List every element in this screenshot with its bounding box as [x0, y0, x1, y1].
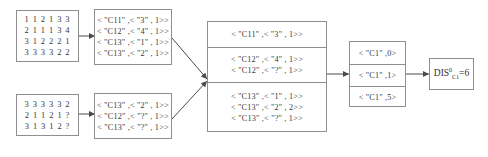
result-box: DIS0C1=6: [429, 58, 474, 90]
source-table-top: 1 1 2 1 3 3 2 1 1 1 3 4 3 1 2 2 2 1 3 3 …: [16, 10, 79, 62]
table-row: 2 1 1 1 3 4: [17, 25, 78, 36]
reducer-value: < "C1" ,1>: [359, 70, 397, 81]
tuple-row: < "C12" ,< "?" , 1>>: [95, 111, 171, 122]
mapper-output-top-rows: < "C11" ,< "3" , 1>> < "C12" ,< "4" , 1>…: [95, 10, 171, 64]
tuple-row: < "C13" ,< "?" , 1>>: [95, 122, 171, 133]
source-table-bottom-rows: 3 3 3 3 3 2 2 1 1 2 1 ? 3 1 3 1 2 ?: [17, 95, 78, 135]
diagram-canvas: 1 1 2 1 3 3 2 1 1 1 3 4 3 1 2 2 2 1 3 3 …: [0, 0, 488, 157]
tuple-row: < "C11" ,< "3" , 1>>: [95, 15, 171, 26]
mapper-output-bottom: < "C13" ,< "2" , 1>> < "C12" ,< "?" , 1>…: [94, 93, 172, 139]
result-prefix: DIS: [434, 69, 449, 79]
result-equals: =6: [459, 69, 469, 79]
reducer-box: < "C1" ,0> < "C1" ,1> < "C1" ,5>: [349, 41, 406, 107]
table-row: 1 1 2 1 3 3: [17, 14, 78, 25]
tuple-row: < "C12" ,< "?" , 1>>: [208, 65, 326, 76]
combiner-group-c13: < "C13" ,< "1" , 1>> < "C13" ,< "2" , 2>…: [208, 82, 326, 131]
tuple-row: < "C13" ,< "2" , 1>>: [95, 100, 171, 111]
tuple-row: < "C12" ,< "4" , 1>>: [208, 54, 326, 65]
mapper-output-bottom-rows: < "C13" ,< "2" , 1>> < "C12" ,< "?" , 1>…: [95, 94, 171, 138]
combiner-group-c11: < "C11" ,< "3" , 1>>: [208, 22, 326, 47]
table-row: 3 3 3 3 3 2: [17, 99, 78, 110]
source-table-top-rows: 1 1 2 1 3 3 2 1 1 1 3 4 3 1 2 2 2 1 3 3 …: [17, 11, 78, 61]
mapper-output-top: < "C11" ,< "3" , 1>> < "C12" ,< "4" , 1>…: [94, 9, 172, 65]
reducer-value: < "C1" ,0>: [359, 48, 397, 59]
reducer-cell: < "C1" ,0>: [350, 42, 405, 64]
tuple-row: < "C13" ,< "1" , 1>>: [208, 91, 326, 102]
source-table-bottom: 3 3 3 3 3 2 2 1 1 2 1 ? 3 1 3 1 2 ?: [16, 94, 79, 136]
result-superscript: 0: [449, 67, 452, 73]
tuple-row: < "C11" ,< "3" , 1>>: [208, 29, 326, 40]
reducer-value: < "C1" ,5>: [359, 92, 397, 103]
tuple-row: < "C12" ,< "4" , 1>>: [95, 26, 171, 37]
arrow-mapper-bottom-to-combiner: [172, 81, 207, 119]
table-row: 3 1 3 1 2 ?: [17, 121, 78, 132]
result-content: DIS0C1=6: [430, 59, 473, 89]
tuple-row: < "C13" ,< "?" , 1>>: [208, 113, 326, 124]
result-formula: DIS0C1=6: [434, 67, 469, 80]
tuple-row: < "C13" ,< "2" , 1>>: [95, 48, 171, 59]
table-row: 3 1 2 2 2 1: [17, 36, 78, 47]
reducer-cell: < "C1" ,1>: [350, 64, 405, 86]
combiner-box: < "C11" ,< "3" , 1>> < "C12" ,< "4" , 1>…: [207, 21, 327, 132]
table-row: 3 3 3 3 2 2: [17, 47, 78, 58]
combiner-group-c12: < "C12" ,< "4" , 1>> < "C12" ,< "?" , 1>…: [208, 47, 326, 82]
table-row: 2 1 1 2 1 ?: [17, 110, 78, 121]
arrow-mapper-top-to-combiner: [172, 38, 207, 79]
tuple-row: < "C13" ,< "2" , 2>>: [208, 102, 326, 113]
reducer-cell: < "C1" ,5>: [350, 86, 405, 108]
tuple-row: < "C13" ,< "1" , 1>>: [95, 37, 171, 48]
